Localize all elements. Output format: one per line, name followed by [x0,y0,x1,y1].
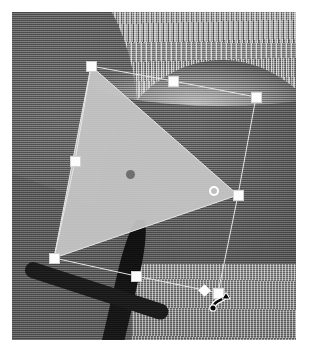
selection-overlay[interactable] [0,0,322,360]
handle-left-middle[interactable] [70,156,81,167]
rotate-cursor [209,289,235,315]
rotate-cursor-arrowhead [222,293,230,300]
handle-top-middle[interactable] [168,76,179,87]
rotate-cursor-tail-dot [210,305,216,311]
image-canvas[interactable] [0,0,322,360]
handle-right-middle[interactable] [233,190,244,201]
anchor-ring[interactable] [209,186,219,196]
triangle-selection-fill[interactable] [54,66,238,258]
handle-top-left[interactable] [86,61,97,72]
handle-top-right[interactable] [251,92,262,103]
pivot-point[interactable] [126,170,135,179]
handle-bottom-left[interactable] [49,253,60,264]
handle-bottom-middle[interactable] [131,271,142,282]
